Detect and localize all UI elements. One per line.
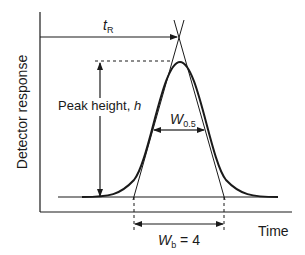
half-width-label: W0.5 [170, 111, 196, 129]
y-axis-label: Detector response [14, 55, 30, 170]
chromatogram-diagram: tR Peak height, h W0.5 Wb = 4 Time Detec… [0, 0, 305, 255]
x-axis-label: Time [258, 223, 289, 239]
tangent-right [174, 20, 225, 200]
retention-time-label: tR [103, 17, 114, 35]
base-width-label: Wb = 4 [158, 232, 200, 250]
peak-height-label: Peak height, h [58, 98, 141, 113]
